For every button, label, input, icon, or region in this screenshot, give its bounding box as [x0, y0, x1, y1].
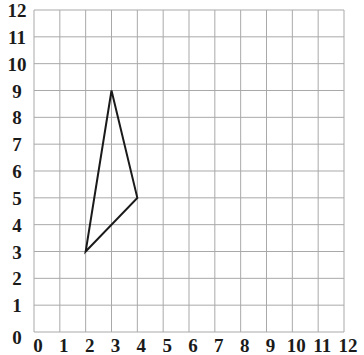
- y-axis-tick-labels: 0123456789101112: [8, 0, 27, 348]
- x-tick-label: 8: [240, 335, 250, 355]
- y-tick-label: 12: [8, 0, 27, 21]
- y-tick-label: 7: [12, 134, 22, 155]
- grid-lines: [34, 10, 344, 332]
- x-tick-label: 3: [111, 335, 121, 355]
- y-tick-label: 10: [8, 54, 27, 75]
- x-tick-label: 0: [33, 335, 43, 355]
- coordinate-grid-diagram: 0123456789101112 0123456789101112: [0, 0, 364, 355]
- y-tick-label: 1: [12, 295, 22, 316]
- y-tick-label: 8: [12, 107, 22, 128]
- y-tick-label: 6: [12, 161, 22, 182]
- x-tick-label: 10: [287, 335, 306, 355]
- x-tick-label: 2: [85, 335, 95, 355]
- y-tick-label: 5: [12, 188, 22, 209]
- x-tick-label: 9: [266, 335, 276, 355]
- y-tick-label: 3: [12, 242, 22, 263]
- y-tick-label: 2: [12, 268, 22, 289]
- x-tick-label: 12: [339, 335, 358, 355]
- y-tick-label: 4: [12, 215, 22, 236]
- x-tick-label: 4: [137, 335, 147, 355]
- x-tick-label: 1: [59, 335, 69, 355]
- x-tick-label: 7: [214, 335, 224, 355]
- x-axis-tick-labels: 0123456789101112: [33, 335, 357, 355]
- y-tick-label: 11: [8, 27, 26, 48]
- y-tick-label: 9: [12, 81, 22, 102]
- x-tick-label: 5: [162, 335, 172, 355]
- y-tick-label: 0: [12, 327, 22, 348]
- x-tick-label: 6: [188, 335, 198, 355]
- x-tick-label: 11: [313, 335, 331, 355]
